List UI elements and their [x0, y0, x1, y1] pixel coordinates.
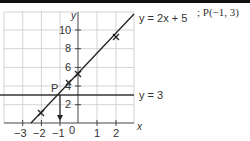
y-tick-2: 2 — [65, 98, 71, 110]
x-tick-2: 2 — [113, 127, 119, 139]
line1-label: y = 2x + 5 — [139, 12, 187, 24]
point-note: ; P(−1, 3) — [197, 6, 239, 18]
y-tick-8: 8 — [65, 42, 71, 54]
x-axis-label: x — [137, 121, 142, 132]
x-tick-neg1: −1 — [52, 127, 65, 139]
line2-label: y = 3 — [139, 89, 163, 101]
point-p-label: P — [51, 82, 58, 94]
y-tick-6: 6 — [65, 61, 71, 73]
x-tick-0: 0 — [69, 124, 75, 136]
y-tick-4: 4 — [65, 80, 71, 92]
arrow-down-icon — [57, 115, 63, 121]
y-tick-10: 10 — [59, 24, 71, 36]
y-axis-label: y — [71, 10, 76, 21]
graph-canvas — [0, 0, 250, 141]
x-tick-neg2: −2 — [33, 127, 46, 139]
x-tick-neg3: −3 — [14, 127, 27, 139]
x-tick-1: 1 — [94, 127, 100, 139]
